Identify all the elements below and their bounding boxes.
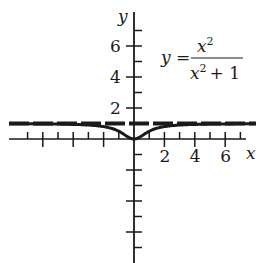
x-tick-label: 6 [220, 146, 231, 166]
x-tick-label: 4 [190, 146, 201, 166]
equation-denominator: x2+ 1 [190, 62, 240, 83]
equation-lhs: y = [160, 47, 190, 67]
y-axis-label: y [117, 6, 128, 26]
x-tick-label: 2 [159, 146, 170, 166]
equation-label: y = x2 x2+ 1 [160, 35, 243, 83]
y-tick-label: 6 [110, 36, 121, 56]
y-tick-label: 2 [110, 98, 121, 118]
function-curve [9, 124, 255, 139]
x-axis-label: x [246, 143, 256, 163]
data-series [9, 124, 256, 140]
equation-numerator: x2 [197, 35, 214, 56]
function-graph: y x 246642 y = x2 x2+ 1 [0, 0, 264, 263]
y-tick-label: 4 [110, 67, 121, 87]
